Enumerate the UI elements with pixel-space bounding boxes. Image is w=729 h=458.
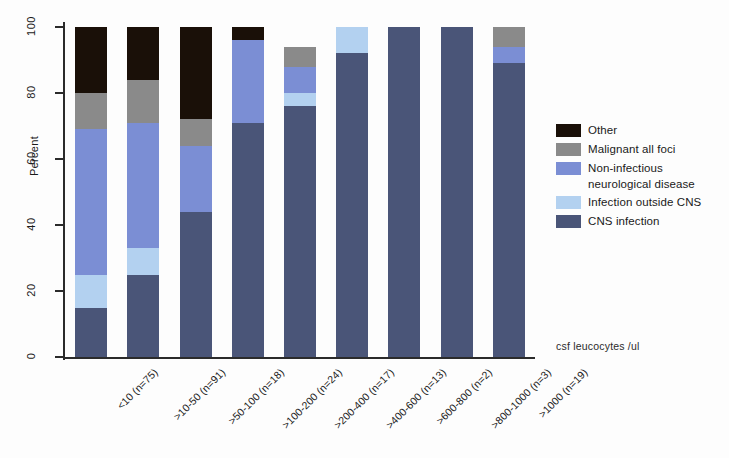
bar-3 bbox=[180, 27, 212, 357]
bar-segment bbox=[75, 308, 107, 358]
bar-segment bbox=[493, 47, 525, 64]
legend-label-infection-outside-cns: Infection outside CNS bbox=[588, 194, 701, 210]
bar-segment bbox=[127, 123, 159, 248]
y-axis-tick bbox=[55, 92, 64, 94]
bar-segment bbox=[284, 47, 316, 67]
bar-segment bbox=[180, 212, 212, 357]
bar-segment bbox=[388, 27, 420, 357]
legend-swatch-non-infectious-neurological-disease bbox=[556, 162, 581, 175]
bar-2 bbox=[127, 27, 159, 357]
bar-segment bbox=[284, 106, 316, 357]
x-axis-tick-label: >50-100 (n=18) bbox=[225, 366, 286, 427]
y-axis-tick bbox=[55, 290, 64, 292]
chart-legend: OtherMalignant all fociNon-infectiousneu… bbox=[556, 122, 726, 232]
bar-segment bbox=[232, 27, 264, 40]
bar-segment bbox=[284, 93, 316, 106]
y-axis-tick-label: 100 bbox=[25, 9, 37, 43]
bar-segment bbox=[127, 27, 159, 80]
x-axis-tick-label: <10 (n=75) bbox=[114, 366, 160, 412]
bar-6 bbox=[336, 27, 368, 357]
plot-area bbox=[65, 27, 535, 357]
y-axis-tick-label: 0 bbox=[25, 339, 37, 373]
bar-1 bbox=[75, 27, 107, 357]
bar-7 bbox=[388, 27, 420, 357]
y-axis-tick bbox=[55, 224, 64, 226]
bar-segment bbox=[232, 123, 264, 357]
stacked-bar-chart: Percent 020406080100 <10 (n=75)>10-50 (n… bbox=[0, 0, 729, 458]
bar-segment bbox=[493, 63, 525, 357]
y-axis-tick bbox=[55, 26, 64, 28]
legend-swatch-malignant-all-foci bbox=[556, 143, 581, 156]
legend-item-cns-infection: CNS infection bbox=[556, 213, 726, 230]
bar-segment bbox=[180, 146, 212, 212]
legend-item-non-infectious-neurological-disease: Non-infectiousneurological disease bbox=[556, 160, 726, 192]
bar-segment bbox=[336, 53, 368, 357]
bar-segment bbox=[127, 248, 159, 274]
bar-segment bbox=[180, 119, 212, 145]
y-axis-tick-label: 80 bbox=[25, 75, 37, 109]
bar-segment bbox=[75, 93, 107, 129]
bar-segment bbox=[232, 40, 264, 123]
bar-9 bbox=[493, 27, 525, 357]
x-axis-tick-label: >800-1000 (n=3) bbox=[488, 366, 553, 431]
legend-item-other: Other bbox=[556, 122, 726, 139]
x-axis-title: csf leucocytes /ul bbox=[556, 340, 640, 352]
bar-segment bbox=[75, 27, 107, 93]
bar-segment bbox=[75, 129, 107, 274]
bar-segment bbox=[441, 27, 473, 357]
y-axis-tick-label: 60 bbox=[25, 141, 37, 175]
bar-5 bbox=[284, 27, 316, 357]
bar-segment bbox=[493, 27, 525, 47]
x-axis-tick-label: >10-50 (n=91) bbox=[171, 366, 227, 422]
bar-segment bbox=[336, 27, 368, 53]
legend-label-other: Other bbox=[588, 122, 617, 138]
legend-label-line2: neurological disease bbox=[588, 176, 695, 192]
bar-segment bbox=[284, 67, 316, 93]
bar-segment bbox=[180, 27, 212, 119]
x-axis-line bbox=[63, 357, 535, 359]
bar-segment bbox=[127, 275, 159, 358]
legend-label-cns-infection: CNS infection bbox=[588, 213, 660, 229]
y-axis-tick bbox=[55, 158, 64, 160]
legend-swatch-other bbox=[556, 124, 581, 137]
bar-8 bbox=[441, 27, 473, 357]
y-axis-tick-label: 40 bbox=[25, 207, 37, 241]
bar-segment bbox=[127, 80, 159, 123]
legend-label-non-infectious-neurological-disease: Non-infectiousneurological disease bbox=[588, 160, 695, 192]
bar-4 bbox=[232, 27, 264, 357]
legend-swatch-infection-outside-cns bbox=[556, 196, 581, 209]
legend-swatch-cns-infection bbox=[556, 215, 581, 228]
y-axis-tick-label: 20 bbox=[25, 273, 37, 307]
bar-segment bbox=[75, 275, 107, 308]
legend-item-infection-outside-cns: Infection outside CNS bbox=[556, 194, 726, 211]
legend-label-malignant-all-foci: Malignant all foci bbox=[588, 141, 675, 157]
legend-item-malignant-all-foci: Malignant all foci bbox=[556, 141, 726, 158]
